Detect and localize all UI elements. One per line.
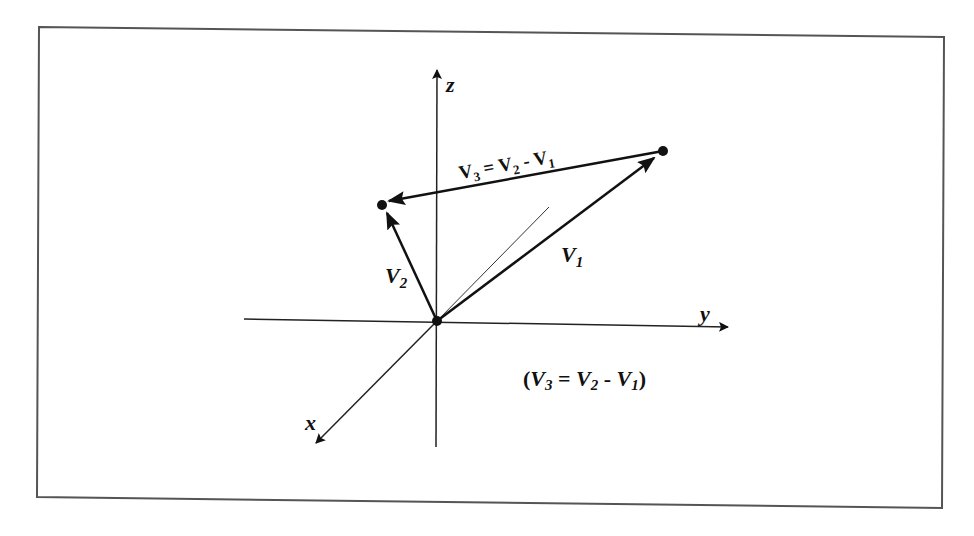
figure-frame	[37, 27, 944, 508]
vector-diagram: z y x V1 V2 V3 = V2 - V1 (V3 = V2 - V1)	[0, 0, 974, 536]
vector-v1	[437, 158, 654, 321]
v1-label: V1	[561, 242, 583, 270]
z-axis-label: z	[445, 72, 455, 97]
x-axis	[316, 321, 437, 443]
x-axis-label: x	[304, 410, 316, 435]
point-left	[377, 200, 387, 210]
projection-line	[437, 207, 549, 321]
origin-point	[432, 316, 442, 326]
y-axis-label: y	[697, 301, 710, 326]
v2-label: V2	[385, 263, 408, 291]
y-axis	[244, 319, 728, 327]
z-axis	[436, 70, 437, 447]
point-right	[658, 146, 668, 156]
caption-equation: (V3 = V2 - V1)	[523, 366, 646, 393]
